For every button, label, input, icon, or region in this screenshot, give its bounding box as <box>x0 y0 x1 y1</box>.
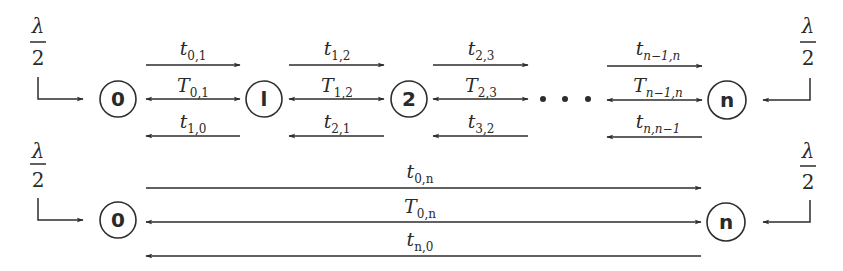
forward-rate-label: t0,1 <box>180 37 207 63</box>
lambda-numerator: λ <box>31 14 45 38</box>
inflow-arrow-right <box>763 200 810 222</box>
bidirectional-rate-label: Tn−1,n <box>633 74 683 100</box>
edge-n-minus-1-n: tn−1,n Tn−1,n tn,n−1 <box>607 37 702 137</box>
forward-rate-label: t1,2 <box>324 37 351 63</box>
right-inflow-rate: λ 2 <box>763 139 816 222</box>
bidirectional-rate-label: T2,3 <box>465 74 497 100</box>
bidirectional-rate-label: T0,n <box>404 195 436 221</box>
lambda-numerator: λ <box>801 14 815 38</box>
inflow-arrow-left <box>38 77 83 99</box>
inflow-arrow-left <box>38 198 83 220</box>
top-chain: λ 2 λ 2 0 l 2 n <box>30 14 816 137</box>
left-inflow-rate: λ 2 <box>30 139 83 220</box>
edge-0-n: t0,n T0,n tn,0 <box>146 160 701 256</box>
markov-chain-diagram: λ 2 λ 2 0 l 2 n <box>0 0 843 271</box>
lambda-numerator: λ <box>801 139 815 163</box>
forward-rate-label: t0,n <box>407 160 434 186</box>
lambda-denominator: 2 <box>802 170 815 194</box>
svg-text:0: 0 <box>111 87 125 111</box>
ellipsis <box>540 96 591 102</box>
left-inflow-rate: λ 2 <box>30 14 83 99</box>
backward-rate-label: tn,n−1 <box>636 110 681 136</box>
state-node-2: 2 <box>391 81 427 117</box>
lambda-numerator: λ <box>31 139 45 163</box>
backward-rate-label: t1,0 <box>180 110 207 136</box>
forward-rate-label: tn−1,n <box>636 37 681 63</box>
bidirectional-rate-label: T0,1 <box>177 74 209 100</box>
backward-rate-label: t3,2 <box>468 110 495 136</box>
bottom-chain: λ 2 λ 2 0 n t0,n T0,n tn,0 <box>30 139 816 256</box>
backward-rate-label: t2,1 <box>324 110 351 136</box>
lambda-denominator: 2 <box>32 168 45 192</box>
edge-0-1: t0,1 T0,1 t1,0 <box>146 37 240 136</box>
svg-text:l: l <box>261 87 268 111</box>
svg-text:n: n <box>719 210 733 234</box>
lambda-denominator: 2 <box>802 46 815 70</box>
right-inflow-rate: λ 2 <box>763 14 816 100</box>
state-node-n: n <box>708 81 746 119</box>
backward-rate-label: tn,0 <box>407 228 434 254</box>
svg-text:0: 0 <box>111 208 125 232</box>
state-node-1: l <box>246 81 282 117</box>
edge-2-3: t2,3 T2,3 t3,2 <box>433 37 528 136</box>
lambda-denominator: 2 <box>32 46 45 70</box>
edge-1-2: t1,2 T1,2 t2,1 <box>289 37 384 136</box>
forward-rate-label: t2,3 <box>468 37 495 63</box>
svg-text:2: 2 <box>402 87 416 111</box>
svg-text:n: n <box>720 88 734 112</box>
state-node-n: n <box>707 203 745 241</box>
inflow-arrow-right <box>763 78 810 100</box>
bidirectional-rate-label: T1,2 <box>321 74 353 100</box>
state-node-0: 0 <box>100 81 136 117</box>
state-node-0: 0 <box>100 202 136 238</box>
